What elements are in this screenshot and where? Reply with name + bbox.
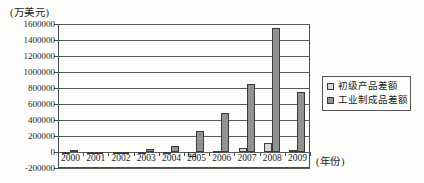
- x-tick-label-2002: 2002: [108, 153, 134, 164]
- x-tick-mark: [260, 152, 261, 156]
- x-tick-mark: [58, 152, 59, 156]
- y-tick-label: 1400000: [0, 35, 55, 45]
- x-tick-label-2005: 2005: [184, 153, 210, 164]
- y-tick-label: 1200000: [0, 51, 55, 61]
- bar-2006-manufactured: [221, 113, 229, 152]
- x-tick-mark: [159, 152, 160, 156]
- y-tick-label: 0: [0, 147, 55, 157]
- x-tick-label-2003: 2003: [133, 153, 159, 164]
- x-axis-unit-label: (年份): [316, 153, 345, 168]
- gridline: [58, 24, 310, 25]
- x-tick-label-2008: 2008: [259, 153, 285, 164]
- y-axis-unit-label: (万美元): [10, 4, 50, 19]
- y-tick-label: -200000: [0, 163, 55, 173]
- legend: 初级产品差额 工业制成品差额: [322, 76, 411, 111]
- x-tick-label-2007: 2007: [234, 153, 260, 164]
- x-tick-label-2001: 2001: [83, 153, 109, 164]
- bar-2005-manufactured: [196, 131, 204, 152]
- bar-2009-primary: [289, 150, 297, 152]
- legend-label-manufactured: 工业制成品差额: [338, 95, 408, 106]
- bar-2003-manufactured: [146, 149, 154, 152]
- bar-2007-primary: [239, 148, 247, 152]
- x-tick-mark: [209, 152, 210, 156]
- y-tick-label: 1600000: [0, 19, 55, 29]
- trade-balance-bar-chart: (万美元) 1600000140000012000001000000800000…: [0, 0, 424, 183]
- y-tick-label: 800000: [0, 83, 55, 93]
- bar-2000-manufactured: [70, 150, 78, 152]
- x-tick-label-2009: 2009: [284, 153, 310, 164]
- gridline: [58, 168, 310, 169]
- legend-swatch-manufactured: [327, 97, 334, 104]
- x-tick-label-2004: 2004: [158, 153, 184, 164]
- bar-2004-manufactured: [171, 146, 179, 152]
- x-tick-mark: [108, 152, 109, 156]
- bar-2007-manufactured: [247, 84, 255, 152]
- legend-swatch-primary: [327, 83, 334, 90]
- legend-label-primary: 初级产品差额: [338, 81, 398, 92]
- x-tick-label-2000: 2000: [58, 153, 84, 164]
- x-tick-mark: [310, 152, 311, 156]
- y-tick-label: 400000: [0, 115, 55, 125]
- x-tick-mark: [83, 152, 84, 156]
- y-tick-label: 600000: [0, 99, 55, 109]
- x-tick-mark: [184, 152, 185, 156]
- y-tick-label: 200000: [0, 131, 55, 141]
- x-tick-label-2006: 2006: [209, 153, 235, 164]
- bar-2008-primary: [264, 143, 272, 152]
- x-tick-mark: [134, 152, 135, 156]
- bar-2009-manufactured: [297, 92, 305, 152]
- bar-2008-manufactured: [272, 28, 280, 152]
- x-tick-mark: [234, 152, 235, 156]
- y-tick-label: 1000000: [0, 67, 55, 77]
- x-tick-mark: [285, 152, 286, 156]
- legend-item-manufactured-goods: 工业制成品差额: [327, 95, 406, 106]
- legend-item-primary-products: 初级产品差额: [327, 81, 406, 92]
